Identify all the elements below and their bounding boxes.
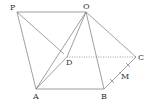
edge-PD [17,12,64,54]
label-C: C [138,53,144,62]
label-M: M [121,72,129,81]
edge-AD [36,57,67,89]
edge-OC [86,12,136,57]
edge-OB [86,12,104,89]
edge-OD [67,12,86,57]
label-D: D [66,58,72,67]
edge-OA [36,12,86,89]
label-A: A [32,92,39,101]
label-O: O [83,2,90,11]
label-P: P [10,3,16,12]
label-B: B [101,92,107,101]
geometry-diagram: P O A B C D M [0,0,150,102]
edge-PA [17,12,36,89]
